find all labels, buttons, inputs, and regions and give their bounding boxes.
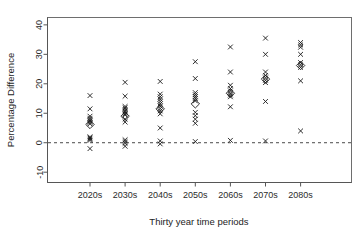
chart-figure: -10010203040 2020s2030s2040s2050s2060s20… (0, 0, 361, 235)
x-tick-label: 2030s (113, 190, 138, 200)
x-tick-label: 2040s (148, 190, 173, 200)
y-tick-label: 30 (35, 49, 45, 59)
y-tick-label: -10 (35, 166, 45, 179)
x-tick-label: 2020s (78, 190, 103, 200)
y-axis-title: Percentage Difference (5, 53, 16, 147)
x-tick-label: 2070s (253, 190, 278, 200)
y-tick-label: 10 (35, 108, 45, 118)
x-tick-label: 2050s (183, 190, 208, 200)
x-tick-label: 2080s (288, 190, 313, 200)
x-axis-title: Thirty year time periods (149, 216, 249, 227)
y-tick-label: 0 (35, 140, 45, 145)
x-tick-label: 2060s (218, 190, 243, 200)
figure-background (0, 0, 361, 235)
scatter-plot-canvas: -10010203040 2020s2030s2040s2050s2060s20… (0, 0, 361, 235)
y-tick-label: 20 (35, 79, 45, 89)
y-tick-label: 40 (35, 20, 45, 30)
